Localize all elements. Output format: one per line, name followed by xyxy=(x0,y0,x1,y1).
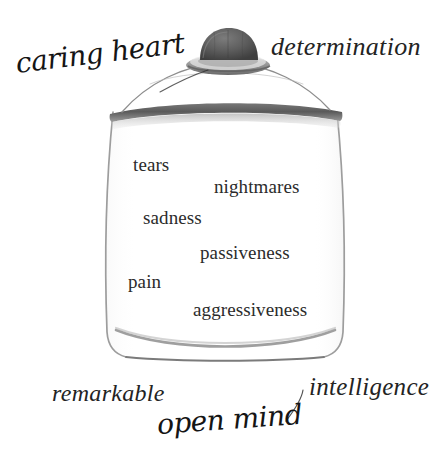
outer-word-remarkable: remarkable xyxy=(52,381,165,405)
inner-word-passiveness: passiveness xyxy=(200,243,290,262)
inner-word-nightmares: nightmares xyxy=(214,177,299,196)
jar-knob xyxy=(200,28,258,60)
inner-word-sadness: sadness xyxy=(143,208,202,227)
illustration-canvas: tears nightmares sadness passiveness pai… xyxy=(0,0,437,469)
inner-word-pain: pain xyxy=(128,272,161,291)
outer-word-determination: determination xyxy=(271,34,421,60)
outer-word-intelligence: intelligence xyxy=(309,374,429,399)
jar-body xyxy=(106,112,344,361)
inner-word-aggressiveness: aggressiveness xyxy=(193,300,307,319)
inner-word-tears: tears xyxy=(133,155,169,174)
